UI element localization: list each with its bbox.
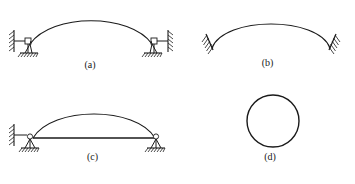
ring-circle-d xyxy=(247,95,299,147)
arch-curve-a xyxy=(30,21,152,44)
caption-b: (b) xyxy=(180,57,355,68)
wall-hatching-right-a xyxy=(168,31,173,51)
panel-a: (a) xyxy=(0,0,180,92)
wall-hatching-left-a xyxy=(9,31,14,51)
panel-d: (d) xyxy=(185,92,355,184)
caption-c: (c) xyxy=(0,151,185,162)
wall-hatching-left-c xyxy=(9,125,14,145)
panel-b: (b) xyxy=(180,0,355,92)
caption-d: (d) xyxy=(185,151,355,162)
caption-a: (a) xyxy=(0,59,180,70)
support-left-a xyxy=(9,30,38,57)
arch-curve-b xyxy=(212,24,330,48)
panel-c: (c) xyxy=(0,92,185,184)
arch-configurations-figure: (a) xyxy=(0,0,355,184)
arch-curve-c xyxy=(33,114,155,138)
support-right-c xyxy=(145,134,165,152)
ground-hatching-right-a xyxy=(142,53,162,57)
support-right-b xyxy=(329,34,340,54)
support-right-a xyxy=(142,30,173,57)
ground-hatching-left-a xyxy=(18,53,38,57)
support-left-b xyxy=(202,34,213,54)
